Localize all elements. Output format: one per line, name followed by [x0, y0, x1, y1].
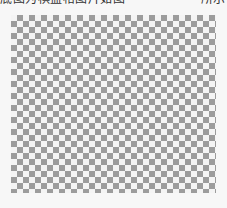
checkerboard-image [11, 15, 216, 193]
caption-text-clipped: 底图为棋盘格图片如图 [0, 0, 227, 5]
caption-text-clipped-right: 所示 [201, 0, 225, 5]
document-page: 底图为棋盘格图片如图 所示 [0, 0, 227, 208]
